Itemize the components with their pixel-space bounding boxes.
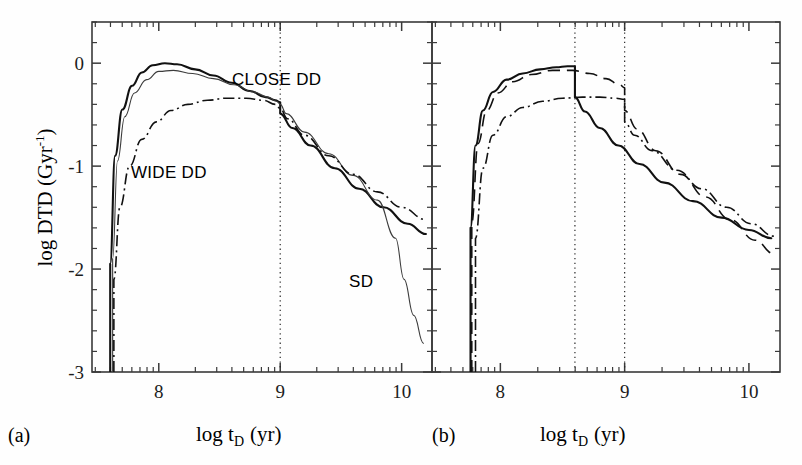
dtd-figure-svg: 89100-1-2-38910	[0, 0, 802, 465]
xtick-label: 8	[496, 381, 506, 402]
ytick-label: -1	[68, 156, 84, 177]
ytick-label: -3	[68, 362, 84, 383]
xtick-label: 9	[620, 381, 630, 402]
figure-root: 89100-1-2-38910 CLOSE DD WIDE DD SD (a) …	[0, 0, 802, 465]
xtick-label: 10	[392, 381, 411, 402]
xtick-label: 9	[275, 381, 285, 402]
ytick-label: 0	[75, 53, 85, 74]
curve-dashed	[472, 70, 774, 372]
ytick-label: -2	[68, 259, 84, 280]
curve-wide-dd	[114, 98, 426, 372]
curve-close-dd	[110, 63, 426, 372]
panel-frame-a	[92, 22, 432, 372]
xtick-label: 10	[739, 381, 758, 402]
xtick-label: 8	[154, 381, 164, 402]
curve-sd	[113, 70, 424, 372]
panel-frame-b	[432, 22, 780, 372]
